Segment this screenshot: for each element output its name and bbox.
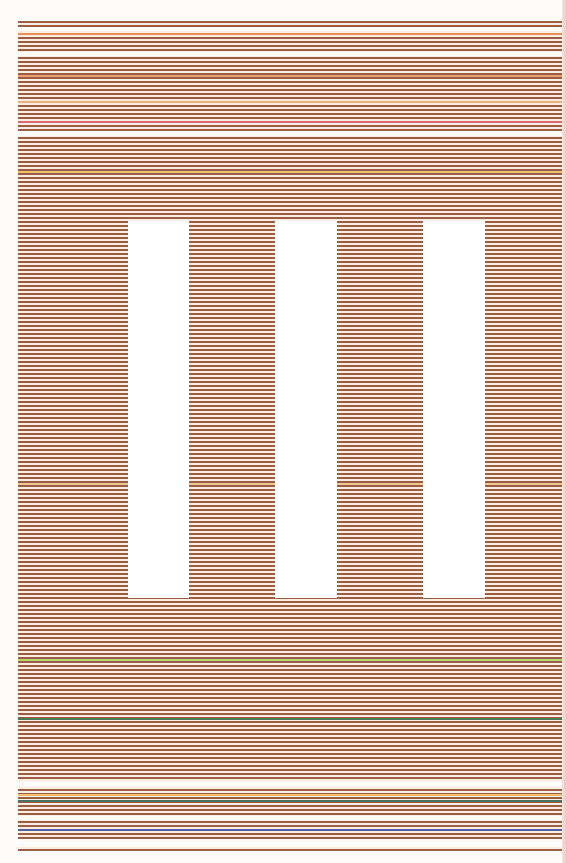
striped-artwork: [18, 21, 563, 851]
accent-stripe: [18, 659, 563, 661]
stripe-gap: [18, 131, 563, 136]
stripe-gap: [18, 52, 563, 56]
accent-stripe: [18, 171, 563, 173]
white-vertical-bar: [275, 221, 337, 598]
accent-stripe: [18, 75, 563, 77]
accent-stripe: [18, 121, 563, 123]
accent-stripe: [18, 718, 563, 720]
page-edge-shadow: [562, 0, 567, 863]
white-vertical-bar: [423, 221, 485, 598]
accent-stripe: [18, 33, 563, 35]
accent-stripe: [18, 800, 563, 802]
stripe-gap: [18, 781, 563, 787]
stripe-gap: [18, 839, 563, 847]
accent-stripe: [18, 829, 563, 831]
white-vertical-bar: [128, 221, 189, 598]
stripe-gap: [18, 816, 563, 820]
accent-stripe: [18, 101, 563, 103]
accent-stripe: [18, 794, 563, 796]
stripe-gap: [18, 27, 563, 31]
